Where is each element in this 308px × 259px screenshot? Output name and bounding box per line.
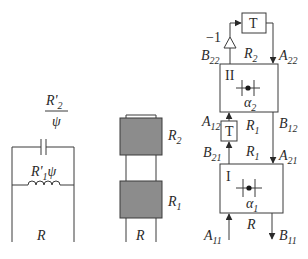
region-R1-upper: R1 <box>245 118 260 136</box>
stack-port-label-R: R <box>135 228 145 243</box>
block-R1 <box>120 181 162 218</box>
inverter-gain-label: −1 <box>206 30 221 45</box>
block-I-label: I <box>226 169 231 184</box>
delay-mid-label: T <box>225 124 234 139</box>
port-label-R: R <box>36 228 46 243</box>
region-R: R <box>246 217 256 232</box>
signal-A12: A12 <box>201 114 221 132</box>
capacitor-label-denominator: ψ <box>52 114 61 129</box>
block-R2 <box>120 118 162 155</box>
block-R1-label: R1 <box>167 194 182 212</box>
region-R2: R2 <box>243 46 258 64</box>
block-R2-label: R2 <box>167 128 182 146</box>
region-R1-lower: R1 <box>245 144 260 162</box>
signal-A22: A22 <box>278 48 298 66</box>
inductor-label: R'1ψ <box>30 164 57 182</box>
block-II-label: II <box>225 68 235 83</box>
lumped-circuit: R'2 ψ R'1ψ R <box>12 93 74 243</box>
signal-B21: B21 <box>203 145 222 163</box>
capacitor-label-numerator: R'2 <box>45 93 63 111</box>
signal-B12: B12 <box>279 116 298 134</box>
inverter-triangle-icon <box>224 37 236 48</box>
layered-stack: R2 R1 R <box>120 115 182 243</box>
diagram-canvas: R'2 ψ R'1ψ R R2 R1 R T <box>0 0 308 259</box>
signal-A11: A11 <box>203 228 222 246</box>
signal-B11: B11 <box>279 228 297 246</box>
signal-B22: B22 <box>201 48 220 66</box>
two-port-network: T −1 B22 R2 A22 II α2 A12 R1 B12 T <box>201 13 298 246</box>
signal-A21: A21 <box>278 148 298 166</box>
delay-top-label: T <box>249 16 258 31</box>
